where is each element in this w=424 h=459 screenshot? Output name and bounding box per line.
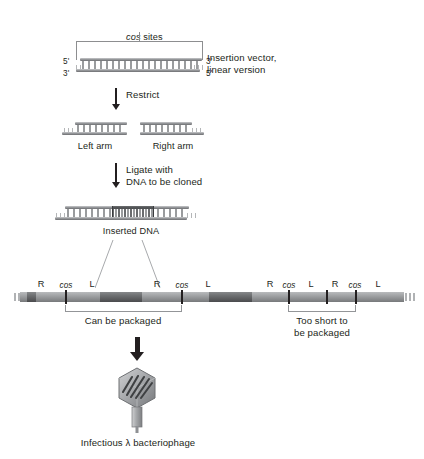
concatemer-left-end-tick-1 [14,293,16,301]
recombinant-right-overhang-ticks [187,213,197,218]
concatemer-right-end-tick-2 [409,293,411,301]
ligate-arrow-head [112,182,120,188]
five-prime-left-label: 5' [63,56,69,68]
right-arm-duplex [140,122,206,136]
three-prime-left-label: 3' [63,68,69,80]
concatemer-insert-segment-2 [209,292,252,302]
left-arm-bottom-strand [62,132,127,135]
concatemer-right-end-tick-1 [405,293,407,301]
concat-marker-0: R [38,279,45,291]
can-be-packaged-label: Can be packaged [85,315,162,328]
ligate-step-label-line2: DNA to be cloned [126,176,202,189]
right-arm-label: Right arm [153,141,194,153]
vector-caption-line2: linear version [207,64,265,77]
cos-sites-stem [139,32,140,41]
too-short-bracket [288,305,356,313]
ligate-step-label-line1: Ligate with [126,164,173,177]
insertion-vector-duplex [76,58,204,76]
concatemer-bar [20,292,404,302]
too-short-label-line1: Too short to [296,315,347,328]
cos-tick-5 [355,290,357,304]
figure-canvas: cos sites 5' 3' 3' 5' Insertion vector, … [0,0,424,459]
left-arm-duplex [62,122,128,136]
cos-sites-crossbar [76,41,203,42]
concat-marker-9: R [332,279,339,291]
packaging-arrow-shaft [135,337,140,353]
vector-caption-line1: Insertion vector, [207,52,276,65]
concat-marker-3: R [154,279,161,291]
restrict-arrow-shaft [115,88,117,105]
recombinant-duplex [55,206,197,222]
concatemer-right-end-tick-3 [413,293,415,301]
vector-bottom-strand [76,69,200,72]
recombinant-bottom-strand [55,217,187,220]
cos-tick-4 [326,290,328,304]
cos-tick-1 [65,290,67,304]
phage-caption: Infectious λ bacteriophage [81,437,196,450]
restrict-arrow-head [112,104,120,110]
concatemer-insert-segment-3 [27,292,36,302]
concat-marker-11: L [375,279,380,291]
restrict-step-label: Restrict [126,89,159,102]
cos-sites-suffix-text: sites [141,32,163,42]
concatemer-left-end-tick-2 [18,293,20,301]
too-short-label-line2: be packaged [294,327,350,340]
concat-marker-5: L [205,279,210,291]
concat-marker-2: L [89,279,94,291]
lambda-bacteriophage-icon [112,366,164,434]
inserted-dna-label: Inserted DNA [103,226,159,238]
packaging-arrow-head [130,352,144,361]
concat-marker-8: L [308,279,313,291]
ligate-arrow-shaft [115,163,117,183]
left-arm-label: Left arm [78,141,113,153]
cos-tick-2 [181,290,183,304]
cos-tick-3 [288,290,290,304]
can-be-packaged-bracket [65,305,182,313]
right-arm-bottom-strand [140,132,204,135]
concatemer-insert-segment-1 [100,292,142,302]
concat-marker-6: R [267,279,274,291]
